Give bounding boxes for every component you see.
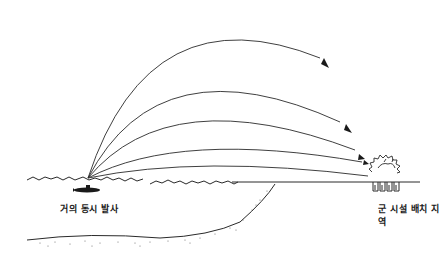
- water-surface-left: [27, 177, 143, 181]
- water-surface-middle: [150, 180, 238, 184]
- explosion-icon: [369, 155, 400, 173]
- submarine-icon: [73, 185, 100, 193]
- diagram-canvas: [0, 0, 441, 264]
- arrowhead-3-icon: [358, 154, 365, 160]
- arrowhead-1-icon: [321, 58, 329, 68]
- trajectory-4: [88, 149, 362, 178]
- launch-label: 거의 동시 발사: [60, 202, 118, 215]
- trajectory-2: [88, 91, 340, 178]
- missile-trajectories: [88, 40, 368, 178]
- arrowhead-2-icon: [344, 124, 352, 133]
- trajectory-5: [88, 166, 368, 178]
- target-label: 군 시설 배치 지역: [378, 202, 441, 228]
- arrowheads: [321, 58, 369, 165]
- arrowhead-4-icon: [363, 160, 369, 165]
- trajectory-1: [88, 40, 320, 178]
